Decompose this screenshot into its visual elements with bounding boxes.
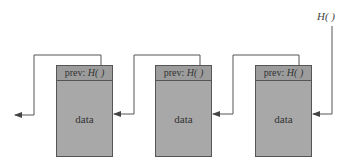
block-node-2: prev: H( ) data [155,65,212,157]
head-hash-label: H( ) [317,10,335,22]
prev-hash: H( ) [88,67,104,78]
block-header: prev: H( ) [256,66,311,81]
prev-label: prev: [164,67,187,78]
block-header: prev: H( ) [57,66,112,81]
prev-label: prev: [65,67,88,78]
prev-hash: H( ) [187,67,203,78]
block-node-1: prev: H( ) data [56,65,113,157]
prev-label: prev: [264,67,287,78]
block-data: data [256,81,311,156]
prev-hash: H( ) [287,67,303,78]
block-data: data [57,81,112,156]
block-data: data [156,81,211,156]
block-node-3: prev: H( ) data [255,65,312,157]
block-header: prev: H( ) [156,66,211,81]
